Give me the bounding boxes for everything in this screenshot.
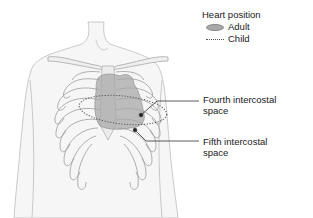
legend-item-child: Child: [202, 33, 261, 45]
annotation-line: space: [203, 105, 276, 116]
annotation-line: space: [203, 147, 267, 158]
annotation-fourth-intercostal: Fourth intercostal space: [203, 94, 276, 116]
child-dotted-line-icon: [206, 39, 224, 40]
legend-item-adult: Adult: [202, 21, 261, 33]
annotation-line: Fourth intercostal: [203, 94, 276, 105]
legend-title: Heart position: [202, 9, 261, 21]
adult-swatch-icon: [206, 24, 224, 31]
legend-label-child: Child: [228, 33, 250, 45]
annotation-fifth-intercostal: Fifth intercostal space: [203, 136, 267, 158]
legend: Heart position Adult Child: [202, 9, 261, 45]
annotation-line: Fifth intercostal: [203, 136, 267, 147]
legend-label-adult: Adult: [228, 21, 250, 33]
